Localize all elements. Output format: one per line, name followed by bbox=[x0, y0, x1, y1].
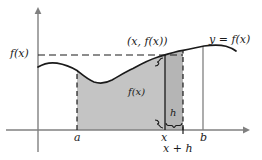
figure-container: f(x) (x, f(x)) y = f(x) f(x) a x b h x +… bbox=[0, 0, 262, 160]
y-axis-arrowhead bbox=[35, 7, 42, 14]
height-label-fx: f(x) bbox=[128, 87, 145, 97]
y-axis-label-fx: f(x) bbox=[10, 48, 29, 59]
curve-label-y-equals-fx: y = f(x) bbox=[209, 34, 250, 45]
x-tick-label-x-plus-h: x + h bbox=[163, 143, 193, 154]
x-tick-label-a: a bbox=[74, 132, 81, 143]
diagram-canvas bbox=[0, 0, 262, 160]
x-tick-label-b: b bbox=[200, 132, 207, 143]
x-axis-arrowhead bbox=[243, 127, 250, 134]
point-label-x-fx: (x, f(x)) bbox=[127, 36, 168, 47]
shaded-area-a-to-x bbox=[77, 55, 165, 130]
width-label-h: h bbox=[170, 108, 176, 118]
shaded-strip-x-to-x-plus-h bbox=[165, 50, 183, 130]
